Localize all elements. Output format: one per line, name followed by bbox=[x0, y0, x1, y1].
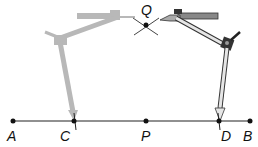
label-a: A bbox=[6, 128, 16, 144]
point-b bbox=[248, 119, 253, 124]
label-c: C bbox=[60, 128, 71, 144]
diagram-canvas: A C P D B Q bbox=[0, 0, 258, 147]
label-d: D bbox=[221, 128, 231, 144]
label-q: Q bbox=[141, 2, 152, 18]
point-a bbox=[11, 119, 16, 124]
ghost-compass bbox=[45, 10, 135, 121]
label-p: P bbox=[141, 128, 151, 144]
point-c bbox=[72, 119, 77, 124]
label-b: B bbox=[243, 128, 252, 144]
compass bbox=[160, 9, 240, 121]
point-d bbox=[217, 119, 222, 124]
point-p bbox=[144, 119, 149, 124]
point-q bbox=[144, 23, 149, 28]
